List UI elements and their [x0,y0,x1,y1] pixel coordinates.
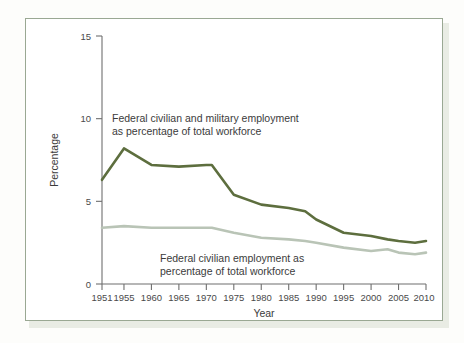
x-axis-title: Year [253,307,275,319]
x-tick-label-2005: 2005 [388,292,409,303]
x-tick-label-1990: 1990 [306,292,327,303]
x-tick-label-1970: 1970 [196,292,217,303]
y-axis-title: Percentage [48,133,60,187]
series-line-civilian-employment [102,226,426,254]
x-tick-label-1955: 1955 [113,292,134,303]
annotation-total-employment-line2: as percentage of total workforce [112,125,262,137]
annotation-total-employment-line1: Federal civilian and military employment [112,112,299,124]
y-tick-label-0: 0 [86,279,91,290]
annotation-civilian-employment: Federal civilian employment as percentag… [160,252,304,277]
x-tick-label-2010: 2010 [413,292,434,303]
annotation-total-employment: Federal civilian and military employment… [112,112,299,137]
x-tick-label-1951: 1951 [91,292,112,303]
x-tick-label-1965: 1965 [168,292,189,303]
y-tick-label-5: 5 [86,196,91,207]
x-tick-label-1975: 1975 [223,292,244,303]
figure-root: 15 10 5 0 Percentage [0,0,464,343]
figure-frame: 15 10 5 0 Percentage [25,18,443,321]
x-tick-label-1980: 1980 [251,292,272,303]
x-axis: 1951 1955 1960 1965 1970 1975 1980 1985 … [91,284,434,319]
annotation-civilian-employment-line2: percentage of total workforce [160,265,296,277]
x-tick-label-1995: 1995 [333,292,354,303]
y-tick-label-15: 15 [80,31,91,42]
x-tick-label-1960: 1960 [141,292,162,303]
y-axis: 15 10 5 0 Percentage [48,31,102,290]
line-chart: 15 10 5 0 Percentage [26,19,442,320]
x-tick-label-1985: 1985 [278,292,299,303]
y-tick-label-10: 10 [80,113,91,124]
annotation-civilian-employment-line1: Federal civilian employment as [160,252,304,264]
x-tick-label-2000: 2000 [361,292,382,303]
series-group [102,148,426,254]
